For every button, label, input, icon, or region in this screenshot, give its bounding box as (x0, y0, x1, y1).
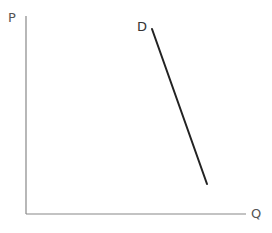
y-axis-label: P (8, 11, 16, 24)
demand-chart: P Q D (0, 0, 272, 233)
x-axis-label: Q (251, 207, 261, 220)
chart-canvas (0, 0, 272, 233)
demand-curve (152, 29, 207, 184)
demand-curve-label: D (137, 20, 147, 33)
